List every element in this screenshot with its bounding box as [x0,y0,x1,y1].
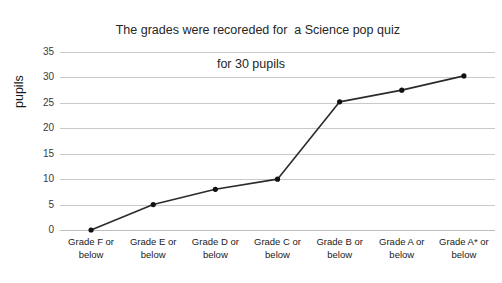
data-point-marker[interactable] [88,227,93,232]
y-tick-label: 30 [32,72,54,82]
series-line-chart [60,52,495,230]
y-tick-label: 10 [32,174,54,184]
x-tick-label: Grade F orbelow [57,236,125,261]
x-tick-label-line-1: Grade E or [130,236,176,247]
x-tick-label-line-1: Grade D or [192,236,239,247]
x-tick-label: Grade B orbelow [306,236,374,261]
y-tick-label: 20 [32,123,54,133]
data-point-marker[interactable] [213,187,218,192]
x-tick-label: Grade A* orbelow [430,236,498,261]
x-tick-label-line-2: below [368,249,436,262]
data-point-marker[interactable] [461,73,466,78]
data-point-marker[interactable] [151,202,156,207]
data-point-marker[interactable] [337,99,342,104]
y-axis-title: pupils [12,75,26,108]
x-tick-label: Grade E orbelow [119,236,187,261]
x-tick-label-line-1: Grade B or [316,236,362,247]
y-tick-label: 0 [32,225,54,235]
y-axis-tick-labels: 05101520253035 [28,52,54,230]
gridline-0 [60,230,495,231]
data-point-marker[interactable] [275,177,280,182]
y-tick-label: 25 [32,98,54,108]
x-tick-label: Grade D orbelow [181,236,249,261]
y-tick-label: 35 [32,47,54,57]
x-tick-label-line-2: below [244,249,312,262]
y-tick-label: 15 [32,149,54,159]
x-tick-label: Grade A orbelow [368,236,436,261]
chart-container: The grades were recoreded for a Science … [0,0,502,283]
x-tick-label-line-1: Grade A* or [439,236,489,247]
x-tick-label-line-2: below [57,249,125,262]
x-tick-label-line-2: below [181,249,249,262]
x-tick-label: Grade C orbelow [244,236,312,261]
x-tick-label-line-2: below [306,249,374,262]
x-tick-label-line-2: below [119,249,187,262]
data-point-marker[interactable] [399,88,404,93]
x-tick-label-line-1: Grade A or [379,236,424,247]
series-line [91,76,464,230]
x-tick-label-line-2: below [430,249,498,262]
plot-area [60,52,495,230]
x-axis-tick-labels: Grade F orbelowGrade E orbelowGrade D or… [60,236,495,276]
x-tick-label-line-1: Grade F or [68,236,114,247]
y-tick-label: 5 [32,200,54,210]
chart-title-line-1: The grades were recoreded for a Science … [116,23,400,37]
x-tick-label-line-1: Grade C or [254,236,301,247]
